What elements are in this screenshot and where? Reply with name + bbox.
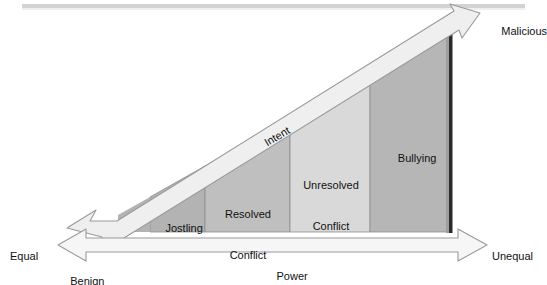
threshold-line-highlight xyxy=(446,29,449,233)
segment-label-unresolved-conflict-line2: Conflict xyxy=(292,220,370,234)
segment-label-unresolved-conflict: Unresolved Conflict xyxy=(292,152,370,260)
power-axis-label: Power xyxy=(256,257,316,285)
segment-label-unresolved-conflict-line1: Unresolved xyxy=(292,179,370,193)
threshold-line xyxy=(449,29,453,233)
intent-high-label: Malicious xyxy=(489,12,547,51)
top-rule-shadow xyxy=(22,8,525,10)
intent-low-label: Benign xyxy=(58,262,105,285)
power-axis-label-text: Power xyxy=(277,270,308,282)
intent-low-label-text: Benign xyxy=(70,275,104,285)
figure-canvas: Jostling Resolved Conflict Unresolved Co… xyxy=(0,0,547,285)
power-low-label: Equal Power xyxy=(10,224,60,285)
segment-label-jostling-line1: Jostling xyxy=(165,222,202,234)
segment-label-resolved-conflict-line1: Resolved xyxy=(208,208,288,222)
intent-axis-label-text: Intent xyxy=(262,124,292,148)
segment-label-bullying-line1: Bullying xyxy=(398,152,437,164)
power-high-label: Unequal Power xyxy=(492,224,547,285)
power-high-label-line1: Unequal xyxy=(492,250,547,263)
top-rule xyxy=(22,4,525,8)
segment-label-bullying: Bullying xyxy=(372,138,450,179)
power-low-label-line1: Equal xyxy=(10,250,60,263)
intent-high-label-text: Malicious xyxy=(501,25,547,37)
segment-label-jostling: Jostling xyxy=(152,208,204,249)
